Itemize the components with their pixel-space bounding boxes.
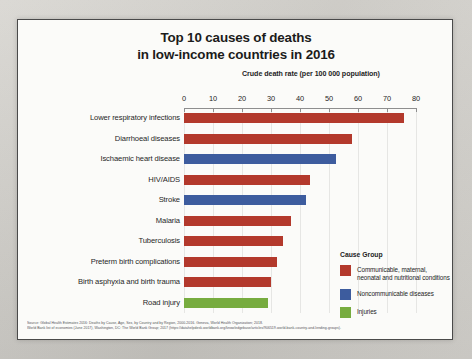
bar: [184, 236, 283, 246]
chart-title: Top 10 causes of deaths in low-income co…: [18, 29, 453, 63]
legend-title: Cause Group: [340, 251, 452, 258]
tick-label-40: 40: [288, 94, 312, 103]
bar: [184, 216, 291, 226]
tick-label-60: 60: [346, 94, 370, 103]
legend-color-swatch: [340, 265, 351, 276]
tick-label-0: 0: [172, 94, 196, 103]
bar: [184, 195, 306, 205]
category-label: Road injury: [30, 298, 180, 307]
chart-figure: Top 10 causes of deaths in low-income co…: [17, 19, 453, 340]
source-line-2: World Bank list of economies (June 2017)…: [27, 326, 445, 331]
category-label: HIV/AIDS: [30, 175, 180, 184]
bar: [184, 298, 268, 308]
scanned-page-background: Top 10 causes of deaths in low-income co…: [0, 0, 472, 359]
legend-item-label: Noncommunicable diseases: [357, 289, 434, 298]
legend-item: Noncommunicable diseases: [340, 289, 452, 300]
tick-label-30: 30: [259, 94, 283, 103]
legend-item-label: Injuries: [357, 307, 377, 316]
x-axis-title: Crude death rate (per 100 000 population…: [168, 70, 453, 78]
bar: [184, 175, 310, 185]
legend: Cause Group Communicable, maternal, neon…: [340, 251, 452, 325]
category-label: Preterm birth complications: [30, 257, 180, 266]
tick-80: [416, 108, 417, 112]
legend-item: Communicable, maternal, neonatal and nut…: [340, 265, 452, 282]
tick-label-50: 50: [317, 94, 341, 103]
legend-items: Communicable, maternal, neonatal and nut…: [340, 265, 452, 318]
category-label: Ischaemic heart disease: [30, 154, 180, 163]
legend-item-label: Communicable, maternal, neonatal and nut…: [357, 265, 452, 282]
category-label: Lower respiratory infections: [30, 113, 180, 122]
category-label: Tuberculosis: [30, 236, 180, 245]
tick-label-20: 20: [230, 94, 254, 103]
bar: [184, 277, 271, 287]
category-label: Malaria: [30, 216, 180, 225]
bar: [184, 113, 404, 123]
bar: [184, 134, 352, 144]
chart-title-line-2: in low-income countries in 2016: [18, 46, 453, 63]
chart-title-line-1: Top 10 causes of deaths: [18, 29, 453, 46]
category-label: Birth asphyxia and birth trauma: [30, 277, 180, 286]
legend-item: Injuries: [340, 307, 452, 318]
tick-label-10: 10: [201, 94, 225, 103]
legend-color-swatch: [340, 289, 351, 300]
bar: [184, 257, 277, 267]
legend-color-swatch: [340, 307, 351, 318]
tick-label-70: 70: [375, 94, 399, 103]
source-note: Source: Global Health Estimates 2016: De…: [27, 321, 445, 331]
category-label: Diarrhoeal diseases: [30, 134, 180, 143]
bar: [184, 154, 336, 164]
tick-label-80: 80: [404, 94, 428, 103]
category-label: Stroke: [30, 195, 180, 204]
y-axis-category-labels: Lower respiratory infectionsDiarrhoeal d…: [28, 108, 180, 313]
